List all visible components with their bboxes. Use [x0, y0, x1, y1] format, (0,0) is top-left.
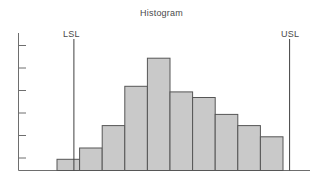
- lsl-label: LSL: [63, 29, 80, 39]
- histogram-bar: [260, 137, 283, 171]
- histogram-bar: [102, 126, 125, 171]
- histogram-bar: [80, 148, 103, 171]
- y-axis: [19, 33, 27, 171]
- histogram-bar: [215, 114, 238, 170]
- histogram-bar: [125, 86, 148, 170]
- histogram-bar: [57, 159, 80, 170]
- histogram-bar: [193, 98, 216, 171]
- histogram-bar: [147, 58, 170, 170]
- usl-label: USL: [281, 29, 299, 39]
- histogram-bar: [238, 126, 261, 171]
- histogram-bar: [170, 92, 193, 171]
- bar-series: [57, 58, 283, 170]
- histogram-chart: Histogram LSL USL: [0, 0, 323, 187]
- plot-area: [0, 0, 323, 187]
